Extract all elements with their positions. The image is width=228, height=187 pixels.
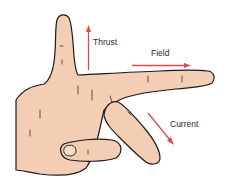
fleming-hand-diagram: Thrust Field Current (0, 0, 228, 187)
thrust-arrow (86, 25, 91, 70)
thrust-label: Thrust (93, 38, 117, 47)
field-label: Field (151, 49, 169, 58)
fingernail (64, 145, 76, 156)
hand-illustration (0, 0, 228, 187)
field-arrow (132, 63, 191, 68)
current-label: Current (170, 120, 198, 129)
